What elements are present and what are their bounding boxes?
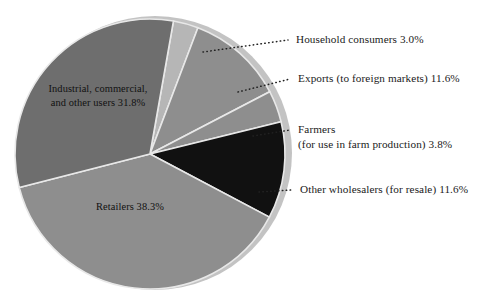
pie-slices — [15, 19, 285, 289]
pie-chart-figure: Household consumers 3.0% Exports (to for… — [0, 0, 486, 296]
slice-label-retailers-line1: Retailers 38.3% — [96, 201, 164, 212]
slice-label-industrial-commercial: Industrial, commercial, and other users … — [28, 82, 168, 110]
callout-other-wholesalers: Other wholesalers (for resale) 11.6% — [300, 182, 468, 197]
slice-label-retailers: Retailers 38.3% — [62, 200, 198, 214]
callout-farmers-text-line2: (for use in farm production) 3.8% — [298, 137, 452, 152]
callout-exports-text: Exports (to foreign markets) 11.6% — [298, 72, 460, 84]
callout-farmers-text-line1: Farmers — [298, 123, 335, 135]
slice-label-industrial-line1: Industrial, commercial, — [49, 83, 148, 94]
slice-label-industrial-line2: and other users 31.8% — [51, 97, 145, 108]
callout-household-text: Household consumers 3.0% — [296, 33, 424, 45]
callout-exports: Exports (to foreign markets) 11.6% — [298, 71, 460, 86]
callout-farmers: Farmers (for use in farm production) 3.8… — [298, 122, 452, 152]
callout-household-consumers: Household consumers 3.0% — [296, 32, 424, 47]
callout-wholesalers-text: Other wholesalers (for resale) 11.6% — [300, 183, 468, 195]
